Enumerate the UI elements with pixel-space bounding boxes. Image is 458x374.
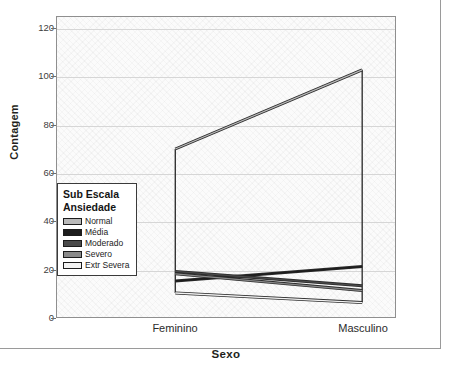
legend-item-label: Moderado [85,239,123,248]
series-line [175,70,362,149]
legend-item: Média [63,227,132,237]
legend-item-label: Média [85,228,108,237]
legend-title-line-1: Sub Escala [63,188,132,201]
legend-item: Moderado [63,238,132,248]
legend-swatch-icon [63,218,82,225]
y-tick-label: 120 [26,22,54,33]
y-tick-label: 0 [26,312,54,323]
legend-item: Normal [63,216,132,226]
legend-title-line-2: Ansiedade [63,201,132,214]
y-tick-label: 100 [26,70,54,81]
x-tick-label: Masculino [303,322,423,334]
legend-swatch-icon [63,240,82,247]
legend-item-label: Extr Severa [85,261,129,270]
x-tick-label: Feminino [115,322,235,334]
legend-item-list: NormalMédiaModeradoSeveroExtr Severa [63,216,132,270]
y-axis-title: Contagem [8,84,20,180]
legend-item: Severo [63,249,132,259]
y-tick-label: 20 [26,264,54,275]
y-tick-label: 40 [26,215,54,226]
y-tick-label: 80 [26,119,54,130]
series-line [175,293,362,303]
y-tick-label: 60 [26,167,54,178]
legend: Sub Escala Ansiedade NormalMédiaModerado… [57,183,137,276]
legend-item: Extr Severa [63,260,132,270]
y-tick-mark [51,318,56,319]
legend-swatch-icon [63,262,82,269]
legend-item-label: Normal [85,217,112,226]
chart-figure: Contagem 020406080100120 FemininoMasculi… [0,0,458,374]
legend-swatch-icon [63,229,82,236]
x-axis-title: Sexo [56,348,396,360]
legend-swatch-icon [63,251,82,258]
legend-item-label: Severo [85,250,112,259]
